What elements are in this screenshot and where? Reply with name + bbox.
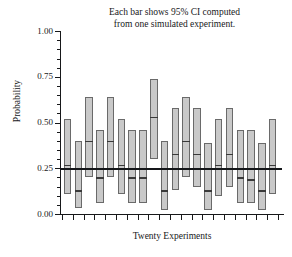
y-tick-label: 0.50 xyxy=(23,118,53,127)
confidence-interval-chart: Each bar shows 95% CI computed from one … xyxy=(0,0,292,257)
ci-point-estimate xyxy=(237,177,245,178)
x-tick xyxy=(105,215,106,220)
ci-bar xyxy=(226,108,234,187)
ci-bar xyxy=(107,97,115,178)
ci-point-estimate xyxy=(193,154,201,155)
chart-title-line-2: from one simulated experiment. xyxy=(62,18,287,30)
ci-point-estimate xyxy=(107,141,115,142)
x-tick xyxy=(148,215,149,220)
x-tick xyxy=(84,215,85,220)
ci-bar xyxy=(118,119,126,194)
ci-point-estimate xyxy=(118,165,126,166)
y-tick-label: 0.00 xyxy=(23,210,53,219)
x-tick xyxy=(170,215,171,220)
ci-point-estimate xyxy=(85,141,93,142)
ci-bar xyxy=(96,130,104,203)
x-tick xyxy=(181,215,182,220)
y-axis-title: Probability xyxy=(12,36,22,166)
x-tick xyxy=(127,215,128,220)
x-tick xyxy=(202,215,203,220)
ci-point-estimate xyxy=(215,165,223,166)
ci-bar xyxy=(150,79,158,160)
x-tick xyxy=(116,215,117,220)
ci-bar xyxy=(215,119,223,196)
x-tick xyxy=(192,215,193,220)
chart-title-line-1: Each bar shows 95% CI computed xyxy=(62,6,287,18)
ci-bar xyxy=(161,141,169,211)
x-tick xyxy=(213,215,214,220)
ci-point-estimate xyxy=(172,154,180,155)
ci-point-estimate xyxy=(182,141,190,142)
x-tick xyxy=(256,215,257,220)
plot-area xyxy=(60,31,283,214)
chart-title: Each bar shows 95% CI computed from one … xyxy=(62,6,287,30)
x-tick xyxy=(94,215,95,220)
ci-point-estimate xyxy=(226,154,234,155)
ci-bar xyxy=(128,130,136,203)
x-tick xyxy=(235,215,236,220)
ci-bar xyxy=(258,143,266,211)
ci-point-estimate xyxy=(150,117,158,118)
ci-bar xyxy=(85,97,93,178)
x-tick xyxy=(73,215,74,220)
ci-point-estimate xyxy=(204,190,212,191)
x-axis-title: Twenty Experiments xyxy=(60,231,284,241)
ci-bar xyxy=(139,130,147,203)
y-tick-label: 0.25 xyxy=(23,164,53,173)
ci-bar xyxy=(75,141,83,209)
ci-bar xyxy=(247,130,255,203)
ci-point-estimate xyxy=(161,190,169,191)
ci-point-estimate xyxy=(64,165,72,166)
x-tick xyxy=(267,215,268,220)
x-tick xyxy=(246,215,247,220)
ci-point-estimate xyxy=(258,190,266,191)
ci-point-estimate xyxy=(139,177,147,178)
y-tick-major xyxy=(55,214,61,215)
ci-point-estimate xyxy=(96,177,104,178)
reference-line xyxy=(60,168,282,169)
ci-bar xyxy=(237,130,245,203)
ci-bar xyxy=(204,143,212,211)
ci-point-estimate xyxy=(247,179,255,180)
y-tick-label: 0.75 xyxy=(23,72,53,81)
x-tick xyxy=(278,215,279,220)
ci-point-estimate xyxy=(75,190,83,191)
x-tick xyxy=(224,215,225,220)
x-tick xyxy=(138,215,139,220)
ci-bar xyxy=(172,108,180,190)
y-axis-tick-labels: 0.000.250.500.751.00 xyxy=(19,0,53,257)
ci-point-estimate xyxy=(269,165,277,166)
x-tick xyxy=(62,215,63,220)
ci-bar xyxy=(193,108,201,187)
x-tick xyxy=(159,215,160,220)
ci-bar xyxy=(182,97,190,178)
y-tick-label: 1.00 xyxy=(23,27,53,36)
ci-bar xyxy=(64,119,72,194)
ci-bar xyxy=(269,119,277,194)
ci-point-estimate xyxy=(128,177,136,178)
